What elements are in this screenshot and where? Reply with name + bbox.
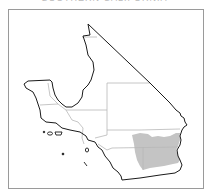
distribution-map (0, 0, 209, 196)
shaded-distribution-region (132, 133, 180, 170)
